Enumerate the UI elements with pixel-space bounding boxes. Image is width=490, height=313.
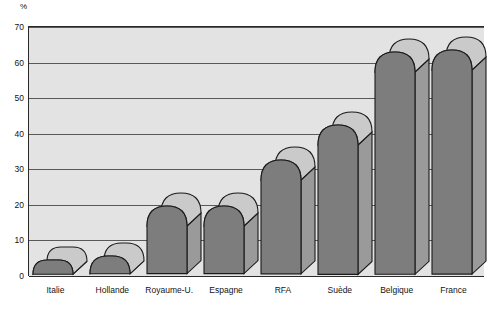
y-tick-label-10: 10 — [15, 236, 24, 245]
x-tick-label-rfa: RFA — [275, 285, 292, 296]
y-axis-unit-label: % — [20, 2, 27, 12]
bar-front-face — [147, 206, 187, 274]
bar-side-face — [358, 132, 372, 274]
x-axis-ticks: ItalieHollandeRoyaume-U.EspagneRFASuèdeB… — [28, 285, 485, 301]
bar-su-de — [317, 110, 375, 276]
bar-italie — [32, 245, 90, 276]
bar-group — [260, 145, 318, 276]
y-tick-label-30: 30 — [15, 165, 24, 174]
bar-espagne — [203, 191, 261, 276]
bar-belgique — [374, 37, 432, 276]
x-tick-label-su-de: Suède — [328, 285, 353, 296]
x-tick-label-france: France — [440, 285, 466, 296]
y-tick-label-50: 50 — [15, 94, 24, 103]
gridline-70 — [29, 27, 484, 28]
bar-front-face — [33, 260, 73, 274]
x-tick-label-royaume-u: Royaume-U. — [145, 285, 193, 296]
bar-front-face — [261, 160, 301, 274]
bar-front-face — [318, 125, 358, 274]
bar-side-face — [472, 57, 486, 274]
bar-chart: % 010203040506070 ItalieHollandeRoyaume-… — [0, 0, 490, 313]
y-tick-label-60: 60 — [15, 58, 24, 67]
bar-group — [89, 241, 147, 276]
bar-front-face — [432, 50, 472, 274]
plot-area: 010203040506070 — [28, 26, 484, 276]
x-tick-label-hollande: Hollande — [96, 285, 130, 296]
bar-front-face — [90, 256, 130, 274]
bar-group — [32, 245, 90, 276]
bar-front-face — [204, 206, 244, 274]
bar-group — [317, 110, 375, 276]
gridline-0 — [29, 276, 484, 277]
bar-royaume-u — [146, 191, 204, 276]
y-tick-label-40: 40 — [15, 129, 24, 138]
bar-side-face — [301, 167, 315, 274]
bar-group — [146, 191, 204, 276]
x-tick-label-belgique: Belgique — [380, 285, 413, 296]
bar-hollande — [89, 241, 147, 276]
bar-group — [431, 35, 489, 276]
bar-group — [203, 191, 261, 276]
y-tick-label-0: 0 — [19, 272, 24, 281]
x-tick-label-espagne: Espagne — [209, 285, 243, 296]
bar-france — [431, 35, 489, 276]
bar-front-face — [375, 52, 415, 274]
bar-side-face — [415, 59, 429, 274]
plot-inner: 010203040506070 — [29, 27, 484, 276]
y-tick-label-70: 70 — [15, 23, 24, 32]
y-tick-label-20: 20 — [15, 200, 24, 209]
bar-group — [374, 37, 432, 276]
bar-rfa — [260, 145, 318, 276]
x-tick-label-italie: Italie — [46, 285, 64, 296]
